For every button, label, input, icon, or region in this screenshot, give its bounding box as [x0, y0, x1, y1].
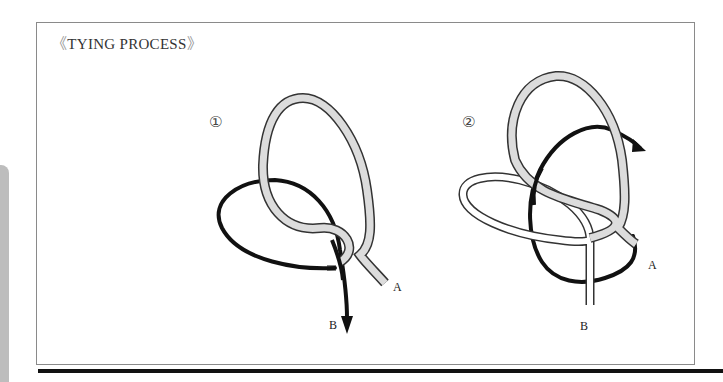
step-1-label-a: A — [393, 280, 402, 295]
step-1-label-b: B — [329, 318, 337, 333]
step-1-number: ① — [209, 113, 222, 131]
step-1-knot-diagram — [0, 0, 723, 382]
step-2-label-a: A — [648, 258, 657, 273]
step-2-number: ② — [462, 113, 475, 131]
step-2-label-b: B — [580, 319, 588, 334]
